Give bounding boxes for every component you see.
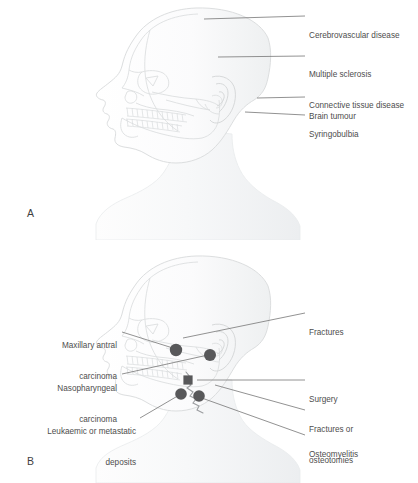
label-line: Osteomyelitis xyxy=(309,450,358,460)
marker-mandible-body xyxy=(183,375,192,384)
leader-syringobulbia xyxy=(245,112,305,115)
panel-b: Fractures Maxillary antral carcinoma Nas… xyxy=(0,240,418,483)
label-fractures: Fractures xyxy=(309,308,344,359)
label-line: Leukaemic or metastatic xyxy=(2,427,136,437)
label-line: deposits xyxy=(2,458,136,468)
marker-nasopharynx xyxy=(204,349,216,361)
figure-root: Cerebrovascular disease Multiple scleros… xyxy=(0,0,418,483)
label-leukaemic-or-metastatic-deposits: Leukaemic or metastatic deposits xyxy=(2,407,136,483)
label-line: Nasopharyngeal xyxy=(22,384,117,394)
marker-maxillary-antrum xyxy=(170,344,182,356)
marker-mandible-angle-right xyxy=(193,390,205,402)
panel-letter-a: A xyxy=(27,207,34,219)
panel-letter-b: B xyxy=(27,455,34,467)
label-line: Maxillary antral xyxy=(22,341,117,351)
face-silhouette-b xyxy=(96,256,270,411)
label-line: Fractures xyxy=(309,328,344,338)
label-line: Syringobulbia xyxy=(309,130,359,140)
label-osteomyelitis: Osteomyelitis xyxy=(309,430,358,481)
label-line: Multiple sclerosis xyxy=(309,70,404,80)
leader-brain-tumour xyxy=(257,97,305,98)
label-line: Cerebrovascular disease xyxy=(309,31,400,41)
head-outline-a xyxy=(96,8,300,240)
marker-mandible-angle-left xyxy=(175,388,187,400)
label-syringobulbia: Syringobulbia xyxy=(309,110,359,161)
panel-a: Cerebrovascular disease Multiple scleros… xyxy=(0,0,418,240)
face-silhouette-a xyxy=(96,8,270,163)
